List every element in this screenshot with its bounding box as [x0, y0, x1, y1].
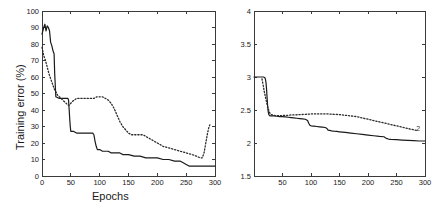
y-tick-label: 80 — [31, 40, 39, 49]
chart-panel-training-error: 0501001502002503000102030405060708090100… — [0, 0, 224, 215]
y-tick-label: 70 — [31, 56, 39, 65]
y-tick-label: 60 — [31, 73, 39, 82]
y-tick-label: 2 — [247, 139, 251, 148]
x-tick-label: 100 — [93, 178, 106, 187]
x-tick-label: 200 — [151, 178, 164, 187]
y-tick-label: 3.5 — [241, 40, 251, 49]
series-dotted — [262, 79, 417, 130]
x-tick-label: 150 — [122, 178, 135, 187]
plot-frame — [42, 11, 215, 176]
figure-container: 0501001502002503000102030405060708090100… — [0, 0, 448, 215]
series-solid — [42, 24, 215, 166]
series-dotted — [42, 47, 210, 158]
x-axis-title-left: Epochs — [92, 190, 129, 202]
x-tick-label: 250 — [390, 178, 403, 187]
y-tick-label: 30 — [31, 122, 39, 131]
y-tick-label: 90 — [31, 23, 39, 32]
x-tick-label: 200 — [362, 178, 375, 187]
x-tick-label: 100 — [305, 178, 318, 187]
x-tick-label: 300 — [209, 178, 222, 187]
chart-panel-error-entropy: 501001502002503001.522.533.542 Epochs Er… — [224, 0, 448, 215]
y-tick-label: 10 — [31, 155, 39, 164]
y-tick-label: 3 — [247, 73, 251, 82]
y-axis-title-left: Training error (%) — [14, 64, 26, 150]
y-tick-label: 1.5 — [241, 172, 251, 181]
training-error-plot: 0501001502002503000102030405060708090100 — [0, 0, 224, 215]
y-tick-label: 20 — [31, 139, 39, 148]
x-tick-label: 50 — [67, 178, 75, 187]
y-tick-label: 40 — [31, 106, 39, 115]
series-solid — [254, 77, 425, 141]
series-annotation: 2 — [416, 125, 420, 132]
x-tick-label: 50 — [278, 178, 286, 187]
x-tick-label: 300 — [419, 178, 432, 187]
y-tick-label: 100 — [26, 7, 39, 16]
x-tick-label: 150 — [333, 178, 346, 187]
x-tick-label: 250 — [180, 178, 193, 187]
y-tick-label: 2.5 — [241, 106, 251, 115]
y-tick-label: 0 — [35, 172, 39, 181]
plot-frame — [254, 11, 425, 176]
y-tick-label: 50 — [31, 89, 39, 98]
x-tick-label: 0 — [40, 178, 44, 187]
y-tick-label: 4 — [247, 7, 251, 16]
error-entropy-plot: 501001502002503001.522.533.542 — [224, 0, 448, 215]
